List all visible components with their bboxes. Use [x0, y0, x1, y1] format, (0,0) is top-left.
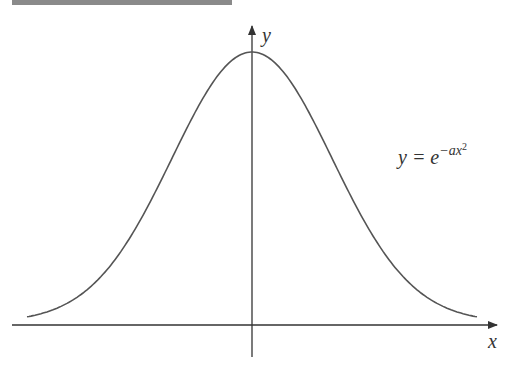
y-axis-label: y [260, 24, 271, 47]
svg-text:y = e−ax2: y = e−ax2 [396, 141, 467, 169]
x-axis-label: x [487, 330, 497, 352]
gaussian-diagram: y x y = e−ax2 [0, 0, 509, 373]
equation-label: y = e−ax2 [396, 141, 467, 169]
